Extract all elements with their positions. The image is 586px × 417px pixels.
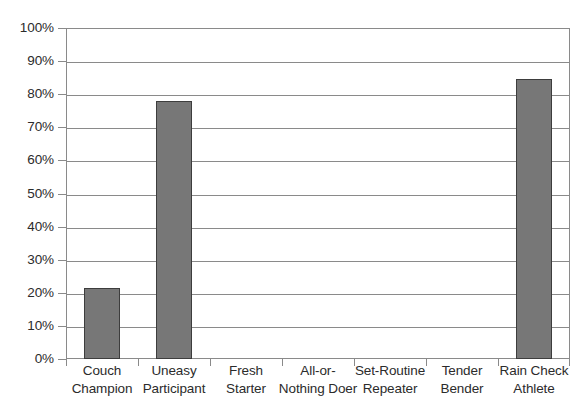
y-tick-label-90: 90% (0, 54, 54, 68)
y-tick-label-60: 60% (0, 153, 54, 167)
y-tick-label-70: 70% (0, 120, 54, 134)
bar-slot-set-routine-repeater (354, 28, 426, 359)
bar-uneasy-participant[interactable] (156, 101, 192, 359)
y-tick-label-30: 30% (0, 253, 54, 267)
bar-slot-couch-champion (66, 28, 138, 359)
y-tick-label-0: 0% (0, 352, 54, 366)
y-tick-mark-100 (58, 28, 66, 29)
y-tick-mark-20 (58, 293, 66, 294)
bar-slot-rain-check-athlete (498, 28, 570, 359)
y-tick-mark-90 (58, 61, 66, 62)
bar-slot-fresh-starter (210, 28, 282, 359)
bar-couch-champion[interactable] (84, 288, 120, 359)
bar-chart: 100% 90% 80% 70% 60% 50% 40% 30% 20% 10%… (0, 0, 586, 417)
y-tick-mark-60 (58, 160, 66, 161)
y-tick-label-100: 100% (0, 21, 54, 35)
x-axis-labels: Couch Champion Uneasy Participant Fresh … (66, 362, 570, 417)
y-tick-mark-30 (58, 260, 66, 261)
bar-slot-all-or-nothing-doer (282, 28, 354, 359)
y-tick-label-20: 20% (0, 286, 54, 300)
y-tick-label-80: 80% (0, 87, 54, 101)
y-axis: 100% 90% 80% 70% 60% 50% 40% 30% 20% 10%… (0, 0, 54, 417)
bar-rain-check-athlete[interactable] (516, 79, 552, 359)
y-tick-label-40: 40% (0, 220, 54, 234)
y-tick-mark-70 (58, 127, 66, 128)
y-tick-mark-0 (58, 359, 66, 360)
x-label-line-2: Athlete (489, 380, 579, 398)
x-label-rain-check-athlete: Rain Check Athlete (489, 362, 579, 398)
y-tick-mark-50 (58, 194, 66, 195)
y-tick-mark-80 (58, 94, 66, 95)
bars-layer (66, 28, 570, 359)
x-label-line-1: Rain Check (489, 362, 579, 380)
y-tick-label-10: 10% (0, 319, 54, 333)
y-tick-mark-10 (58, 326, 66, 327)
bar-slot-tender-bender (426, 28, 498, 359)
y-tick-mark-40 (58, 227, 66, 228)
y-tick-label-50: 50% (0, 187, 54, 201)
bar-slot-uneasy-participant (138, 28, 210, 359)
